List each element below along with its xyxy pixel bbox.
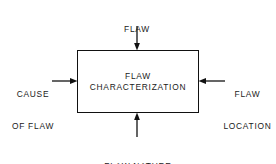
arrow-flaw-nature-or-type <box>134 113 140 138</box>
label-flaw-geometry-line-1: FLAW <box>96 24 178 35</box>
label-cause-of-flaw-line-2: OF FLAW <box>2 121 64 132</box>
label-cause-of-flaw: CAUSE OF FLAW <box>2 68 64 152</box>
label-flaw-nature-or-type-line-1: FLAW NATURE <box>88 161 188 164</box>
flaw-characterization-diagram: FLAW GEOMETRY CAUSE OF FLAW FLAW LOCATIO… <box>0 0 276 164</box>
flaw-characterization-box-text: FLAW CHARACTERIZATION <box>78 51 198 112</box>
label-flaw-location: FLAW LOCATION <box>219 68 276 152</box>
flaw-characterization-box: FLAW CHARACTERIZATION <box>77 50 199 113</box>
flaw-characterization-line-2: CHARACTERIZATION <box>78 82 198 93</box>
label-flaw-location-line-1: FLAW <box>219 89 276 100</box>
flaw-characterization-line-1: FLAW <box>78 71 198 82</box>
label-flaw-nature-or-type: FLAW NATURE OR TYPE <box>88 140 188 164</box>
label-cause-of-flaw-line-1: CAUSE <box>2 89 64 100</box>
label-flaw-location-line-2: LOCATION <box>219 121 276 132</box>
